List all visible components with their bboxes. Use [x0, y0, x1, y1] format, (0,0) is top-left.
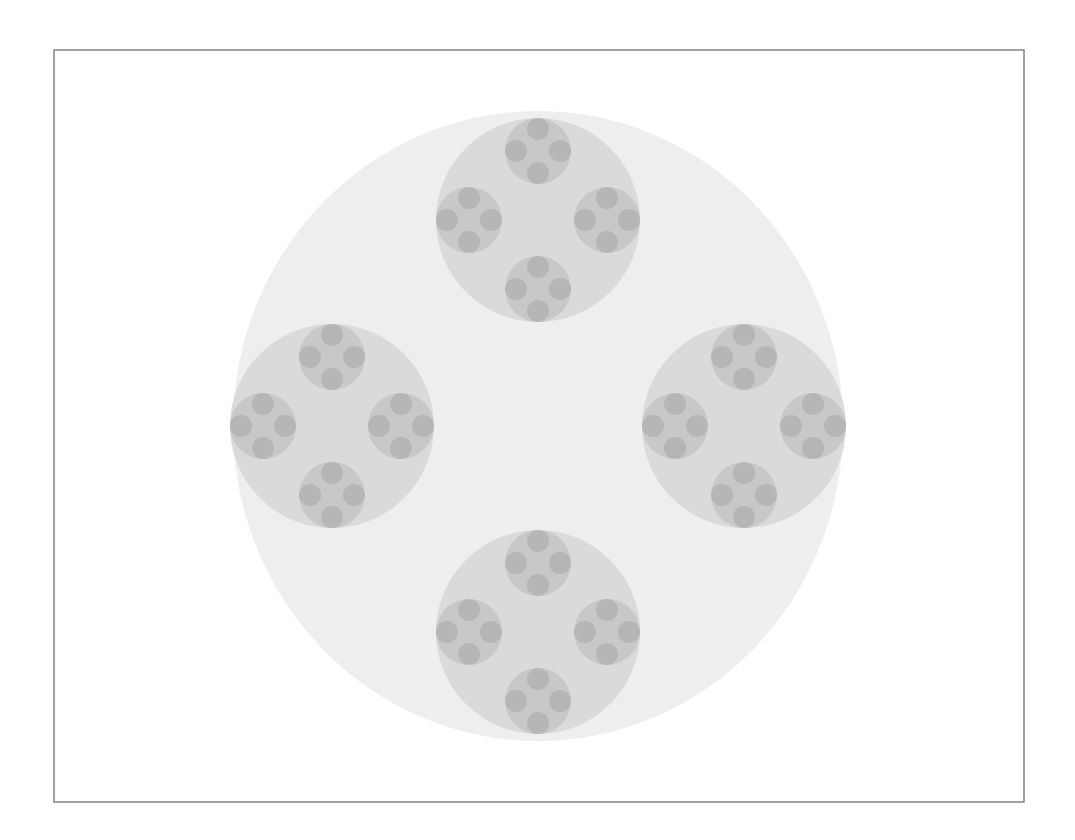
circle-level-3-top: [321, 462, 343, 484]
circle-level-3-top: [733, 324, 755, 346]
circle-level-3-right: [755, 346, 777, 368]
circle-level-3-top: [596, 599, 618, 621]
nested-circle-fractal: [230, 111, 846, 741]
circle-level-3-left: [230, 415, 252, 437]
circle-level-3-left: [574, 621, 596, 643]
circle-level-3-bottom: [664, 437, 686, 459]
circle-level-3-left: [299, 346, 321, 368]
circle-level-3-top: [458, 599, 480, 621]
circle-level-3-left: [780, 415, 802, 437]
circle-level-3-right: [686, 415, 708, 437]
circle-level-3-bottom: [527, 300, 549, 322]
circle-level-3-bottom: [527, 712, 549, 734]
circle-level-3-bottom: [252, 437, 274, 459]
circle-level-3-left: [711, 484, 733, 506]
circle-level-3-right: [549, 552, 571, 574]
circle-level-3-top: [527, 118, 549, 140]
circle-level-3-top: [252, 393, 274, 415]
fractal-figure: [0, 0, 1075, 840]
circle-level-3-right: [480, 209, 502, 231]
circle-level-3-right: [824, 415, 846, 437]
circle-level-3-left: [574, 209, 596, 231]
circle-level-3-right: [755, 484, 777, 506]
circle-level-3-top: [596, 187, 618, 209]
circle-level-3-top: [527, 530, 549, 552]
circle-level-3-bottom: [527, 162, 549, 184]
circle-level-3-left: [436, 209, 458, 231]
circle-level-3-right: [618, 621, 640, 643]
circle-level-3-bottom: [596, 231, 618, 253]
circle-level-3-top: [458, 187, 480, 209]
circle-level-3-top: [390, 393, 412, 415]
circle-level-3-right: [480, 621, 502, 643]
circle-level-3-left: [505, 140, 527, 162]
circle-level-3-right: [549, 278, 571, 300]
circle-level-3-right: [343, 484, 365, 506]
circle-level-3-bottom: [733, 506, 755, 528]
circle-level-3-left: [642, 415, 664, 437]
circle-level-3-right: [343, 346, 365, 368]
circle-level-3-right: [274, 415, 296, 437]
circle-level-3-left: [505, 552, 527, 574]
circle-level-3-left: [368, 415, 390, 437]
circle-level-3-right: [618, 209, 640, 231]
circle-level-3-bottom: [321, 506, 343, 528]
circle-level-3-top: [321, 324, 343, 346]
circle-level-3-top: [527, 256, 549, 278]
circle-level-3-top: [733, 462, 755, 484]
circle-level-3-bottom: [733, 368, 755, 390]
circle-level-3-bottom: [596, 643, 618, 665]
circle-level-3-top: [802, 393, 824, 415]
circle-level-3-bottom: [458, 643, 480, 665]
circle-level-3-left: [299, 484, 321, 506]
circle-level-3-left: [505, 690, 527, 712]
circle-level-3-right: [412, 415, 434, 437]
circle-level-3-left: [505, 278, 527, 300]
circle-level-3-right: [549, 140, 571, 162]
circle-level-3-top: [527, 668, 549, 690]
canvas: [0, 0, 1075, 840]
circle-level-3-left: [711, 346, 733, 368]
circle-level-3-bottom: [390, 437, 412, 459]
circle-level-3-top: [664, 393, 686, 415]
circle-level-3-bottom: [458, 231, 480, 253]
circle-level-3-right: [549, 690, 571, 712]
circle-level-3-left: [436, 621, 458, 643]
circle-level-3-bottom: [527, 574, 549, 596]
circle-level-3-bottom: [802, 437, 824, 459]
circle-level-3-bottom: [321, 368, 343, 390]
